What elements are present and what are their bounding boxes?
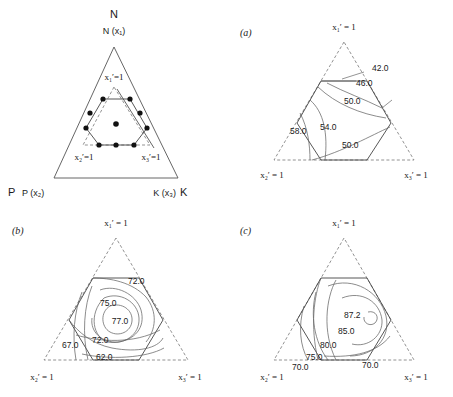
- apex-label-k-outer: K: [180, 186, 188, 198]
- panel-b-apex-right: x₃′ = 1: [178, 372, 202, 382]
- apex-label-p-inner: P (x₂): [22, 188, 44, 198]
- panel-a-tag: (a): [240, 27, 252, 39]
- panel-c-apex-right: x₃′ = 1: [404, 372, 428, 382]
- design-points: [83, 96, 149, 147]
- panel-a-apex-right: x₃′ = 1: [404, 170, 428, 180]
- contour-label-50-lower: 50.0: [342, 140, 359, 150]
- design-region-panel: N N (x₁) P P (x₂) K (x₃) K x₁′=1 x₂′=1 x…: [0, 0, 230, 200]
- contour-label-50-upper: 50.0: [344, 96, 361, 106]
- contour-label-72-upper: 72.0: [128, 276, 145, 286]
- contour-label-58: 58.0: [290, 126, 307, 136]
- apex-label-k-inner: K (x₃): [153, 188, 176, 198]
- leader-46: [382, 100, 392, 108]
- contour-label-87-2: 87.2: [344, 310, 361, 320]
- design-point: [96, 142, 101, 147]
- apex-label-n-outer: N: [110, 8, 118, 20]
- contour-85: [342, 295, 382, 344]
- contour-label-70-left: 70.0: [292, 362, 309, 372]
- contour-left-inner: [85, 286, 92, 360]
- panel-a-apex-top: x₁′ = 1: [332, 22, 356, 32]
- contour-label-62: 62.0: [96, 352, 113, 362]
- contour-label-80: 80.0: [320, 340, 337, 350]
- design-point: [144, 125, 149, 130]
- design-point: [131, 142, 136, 147]
- panel-c-simplex-triangle: [274, 238, 414, 360]
- inner-apex-label-x2: x₂′=1: [74, 152, 93, 162]
- ternary-contour-figure: N N (x₁) P P (x₂) K (x₃) K x₁′=1 x₂′=1 x…: [0, 0, 453, 397]
- apex-label-p-outer: P: [8, 186, 15, 198]
- design-point: [83, 125, 88, 130]
- contour-label-54: 54.0: [320, 122, 337, 132]
- contour-label-42: 42.0: [372, 63, 389, 73]
- design-point: [113, 142, 118, 147]
- contour-label-67: 67.0: [62, 340, 79, 350]
- panel-c-apex-top: x₁′ = 1: [332, 218, 356, 228]
- contour-label-77: 77.0: [112, 316, 129, 326]
- panel-b-apex-left: x₂′ = 1: [30, 372, 54, 382]
- contour-58: [300, 113, 310, 160]
- apex-label-n-inner: N (x₁): [103, 26, 126, 36]
- contour-label-46: 46.0: [356, 78, 373, 88]
- panel-c-tag: (c): [240, 225, 252, 237]
- panel-c-apex-left: x₂′ = 1: [260, 372, 284, 382]
- inner-apex-label-x3: x₃′=1: [141, 152, 160, 162]
- panel-b-apex-top: x₁′ = 1: [104, 218, 128, 228]
- contour-87-2: [364, 312, 377, 325]
- design-point-centroid: [113, 121, 119, 127]
- inner-apex-label-x1: x₁′=1: [104, 72, 123, 82]
- design-point: [87, 110, 92, 115]
- design-point: [137, 110, 142, 115]
- panel-a: 42.0 46.0 50.0 58.0 54.0 50.0 (a) x₁′ = …: [232, 0, 453, 200]
- design-point: [127, 96, 132, 101]
- design-point: [100, 96, 105, 101]
- contour-label-75: 75.0: [306, 352, 323, 362]
- panel-a-apex-left: x₂′ = 1: [260, 170, 284, 180]
- panel-c: 87.2 85.0 80.0 75.0 70.0 70.0 (c) x₁′ = …: [232, 202, 453, 397]
- contour-label-70-bottom: 70.0: [362, 360, 379, 370]
- contour-label-72-lower: 72.0: [92, 335, 109, 345]
- panel-b: 72.0 75.0 77.0 67.0 72.0 62.0 (b) x₁′ = …: [0, 202, 232, 397]
- contour-label-75: 75.0: [100, 298, 117, 308]
- panel-b-tag: (b): [12, 225, 24, 237]
- contour-label-85: 85.0: [338, 326, 355, 336]
